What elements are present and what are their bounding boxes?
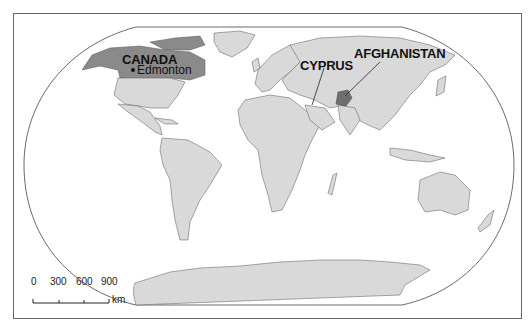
scale-unit: km	[112, 294, 125, 305]
afghanistan-label: AFGHANISTAN	[354, 46, 445, 61]
scale-tick-900: 900	[101, 276, 118, 287]
cyprus-label: CYPRUS	[300, 58, 353, 73]
scale-tick-0: 0	[31, 276, 37, 287]
scale-tick-600: 600	[76, 276, 93, 287]
scale-bar-graphic	[33, 299, 109, 303]
scale-tick-300: 300	[50, 276, 67, 287]
edmonton-label: Edmonton	[137, 63, 192, 77]
edmonton-city-marker	[131, 68, 135, 72]
